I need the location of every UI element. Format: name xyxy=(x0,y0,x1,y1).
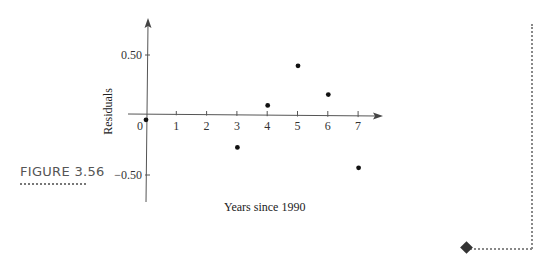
x-tick-label: 3 xyxy=(234,119,240,133)
x-tick-label: 2 xyxy=(204,119,210,133)
x-tick-label: 6 xyxy=(325,119,331,133)
axes xyxy=(128,18,383,202)
y-tick-label: −0.50 xyxy=(114,168,142,182)
dotted-frame-vertical xyxy=(531,24,533,249)
data-point xyxy=(296,63,301,68)
data-point xyxy=(356,165,361,170)
data-point xyxy=(326,92,331,97)
y-ticks: 0.50−0.50 xyxy=(114,48,150,182)
scatter-plot: 01234567 0.50−0.50 xyxy=(0,0,558,262)
x-tick-label: 4 xyxy=(264,119,270,133)
data-point xyxy=(235,145,240,150)
y-tick-label: 0.50 xyxy=(121,48,142,62)
figure-label: FIGURE 3.56 xyxy=(20,164,105,179)
data-point xyxy=(144,117,149,122)
y-axis-label: Residuals xyxy=(101,82,116,142)
x-axis-label: Years since 1990 xyxy=(224,200,305,215)
x-axis xyxy=(128,114,378,116)
data-point xyxy=(265,103,270,108)
x-tick-label: 0 xyxy=(137,119,143,133)
x-tick-label: 5 xyxy=(295,119,301,133)
figure-label-underline xyxy=(20,183,86,185)
data-points xyxy=(144,63,361,170)
x-tick-label: 7 xyxy=(355,119,361,133)
x-tick-label: 1 xyxy=(173,119,179,133)
dotted-frame-horizontal xyxy=(470,248,532,250)
